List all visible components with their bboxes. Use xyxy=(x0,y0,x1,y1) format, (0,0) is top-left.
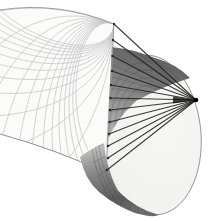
diagram-svg xyxy=(0,0,208,221)
projection-diagram xyxy=(0,0,208,221)
projection-vertex-point xyxy=(194,98,199,103)
